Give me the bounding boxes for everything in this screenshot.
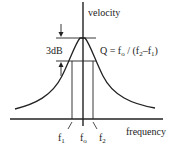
fo-label: fo (80, 132, 87, 145)
bandwidth-label: 3dB (46, 45, 63, 56)
q-formula: Q = fo / (f2–f1) (100, 45, 158, 58)
y-axis-label: velocity (88, 7, 120, 18)
f2-label: f2 (99, 132, 106, 145)
resonance-diagram: velocity frequency 3dB Q = fo / (f2–f1) … (0, 0, 174, 155)
f1-tick (68, 122, 72, 129)
f2-tick (93, 122, 97, 129)
x-axis-label: frequency (126, 126, 166, 137)
arrow-up-icon (59, 62, 64, 67)
f1-label: f1 (58, 132, 65, 145)
arrow-down-icon (59, 32, 64, 37)
